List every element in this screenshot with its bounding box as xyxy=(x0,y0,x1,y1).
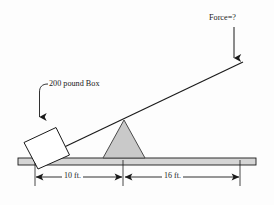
box-leader-arrow xyxy=(40,84,49,117)
diagram-vector-layer xyxy=(0,0,274,205)
lever-arm xyxy=(37,62,243,160)
force-label: Force=? xyxy=(209,14,236,22)
dimension-label-left: 10 ft. xyxy=(62,172,83,180)
dimension-label-right: 16 ft. xyxy=(162,172,183,180)
box-weight-label: 200 pound Box xyxy=(49,80,100,88)
force-diagram-canvas: Force=? 200 pound Box 10 ft. 16 ft. xyxy=(0,0,274,205)
